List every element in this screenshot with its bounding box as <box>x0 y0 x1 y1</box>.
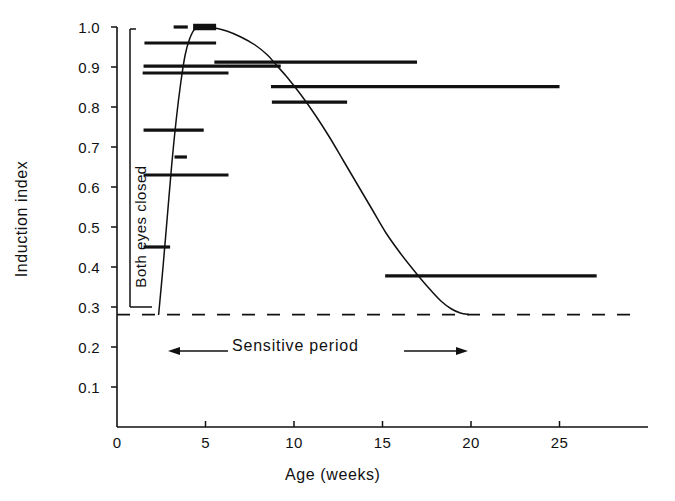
y-tick-label: 0.5 <box>38 219 100 236</box>
left-arrow-icon <box>168 347 180 355</box>
y-tick-label: 0.4 <box>38 259 100 276</box>
y-tick-label: 0.1 <box>38 379 100 396</box>
y-axis-title: Induction index <box>13 139 31 299</box>
y-tick-label: 0.7 <box>38 139 100 156</box>
data-segments-group <box>143 27 597 276</box>
curve-path <box>159 27 470 315</box>
y-tick-label: 0.8 <box>38 99 100 116</box>
sensitivity-curve <box>159 27 470 315</box>
both-eyes-closed-label: Both eyes closed <box>132 147 149 307</box>
y-tick-label: 0.6 <box>38 179 100 196</box>
x-tick-label: 10 <box>285 434 302 451</box>
x-axis-ticks <box>206 421 560 427</box>
y-tick-label: 0.2 <box>38 339 100 356</box>
x-axis-title: Age (weeks) <box>285 466 381 484</box>
x-tick-label: 5 <box>201 434 210 451</box>
chart-canvas <box>0 0 675 501</box>
x-tick-label: 20 <box>462 434 479 451</box>
y-axis-ticks <box>111 27 117 387</box>
x-tick-label: 0 <box>113 434 122 451</box>
sensitive-period-label: Sensitive period <box>232 337 359 355</box>
y-tick-label: 0.9 <box>38 59 100 76</box>
x-tick-label: 25 <box>551 434 568 451</box>
x-tick-label: 15 <box>374 434 391 451</box>
y-tick-label: 0.3 <box>38 299 100 316</box>
right-arrow-icon <box>456 347 468 355</box>
y-tick-label: 1.0 <box>38 19 100 36</box>
figure-root: 0.10.20.30.40.50.60.70.80.91.0 051015202… <box>0 0 675 501</box>
